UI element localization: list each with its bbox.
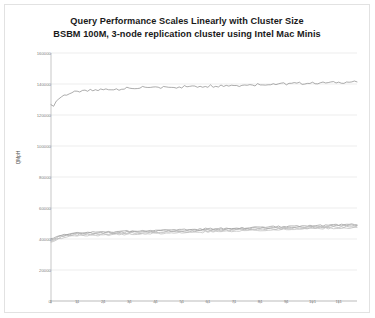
x-axis-tick-label: 21: [101, 299, 106, 304]
y-axis-tick-label: 140000: [15, 82, 51, 87]
plot-svg: [5, 5, 371, 314]
y-axis-ticks: 0200004000060000800001000001200001400001…: [15, 5, 51, 314]
y-axis-tick-label: 100000: [15, 144, 51, 149]
y-axis-tick-label: 160000: [15, 51, 51, 56]
x-axis-tick-label: 91: [284, 299, 289, 304]
y-axis-tick-label: 120000: [15, 113, 51, 118]
y-axis-tick-label: 60000: [15, 206, 51, 211]
x-axis-tick-label: 1: [50, 299, 52, 304]
x-axis-tick-label: 41: [153, 299, 158, 304]
x-axis-tick-label: 81: [258, 299, 263, 304]
x-axis-tick-label: 71: [232, 299, 237, 304]
y-axis-tick-label: 40000: [15, 237, 51, 242]
x-axis-tick-label: 111: [335, 299, 342, 304]
x-axis-tick-label: 11: [75, 299, 79, 304]
chart-container: Query Performance Scales Linearly with C…: [4, 4, 370, 313]
x-axis-tick-label: 51: [179, 299, 184, 304]
y-axis-tick-label: 20000: [15, 268, 51, 273]
x-axis-tick-label: 31: [127, 299, 132, 304]
plot-area: QMpH 02000040000600008000010000012000014…: [5, 5, 371, 314]
x-axis-ticks: 1112131415161718191101111: [5, 297, 371, 311]
x-axis-tick-label: 61: [206, 299, 211, 304]
x-axis-tick-label: 101: [309, 299, 316, 304]
y-axis-tick-label: 80000: [15, 175, 51, 180]
